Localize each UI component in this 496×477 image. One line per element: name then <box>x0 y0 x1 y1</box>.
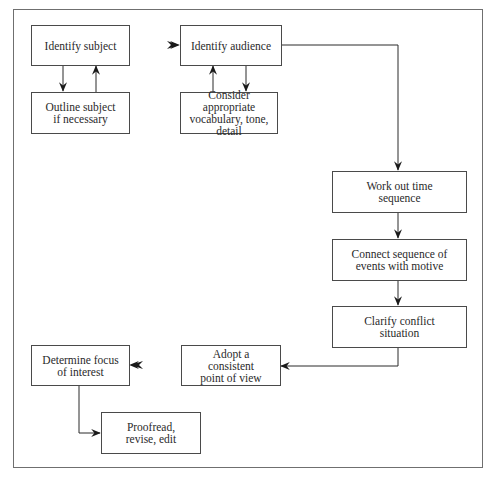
node-consider-vocabulary: Consider appropriate vocabulary, tone, d… <box>180 92 278 134</box>
node-connect-sequence: Connect sequence of events with motive <box>332 239 467 281</box>
node-identify-audience: Identify audience <box>180 25 282 66</box>
edge-determine-to-proofread <box>79 385 100 433</box>
node-label: Identify subject <box>45 40 117 52</box>
node-label: Proofread, revise, edit <box>126 421 176 445</box>
node-label: Outline subject if necessary <box>46 101 116 125</box>
node-adopt-point-of-view: Adopt a consistent point of view <box>181 345 281 386</box>
node-label: Consider appropriate vocabulary, tone, d… <box>183 89 275 137</box>
node-label: Adopt a consistent point of view <box>200 348 261 384</box>
node-identify-subject: Identify subject <box>31 25 130 66</box>
arrowhead-to-audience <box>167 41 179 49</box>
node-label: Connect sequence of events with motive <box>352 248 448 272</box>
edge-clarify-to-adopt <box>281 347 398 366</box>
node-label: Clarify conflict situation <box>364 315 435 339</box>
edge-audience-to-work-out <box>281 45 398 170</box>
node-outline-subject: Outline subject if necessary <box>31 92 130 134</box>
node-label: Determine focus of interest <box>42 354 118 378</box>
node-work-out-time: Work out time sequence <box>332 171 467 213</box>
node-clarify-conflict: Clarify conflict situation <box>332 306 467 348</box>
node-label: Work out time sequence <box>366 180 432 204</box>
node-label: Identify audience <box>191 40 271 52</box>
node-proofread: Proofread, revise, edit <box>101 412 201 454</box>
arrowhead-to-determine <box>131 361 143 369</box>
node-determine-focus: Determine focus of interest <box>31 345 130 386</box>
